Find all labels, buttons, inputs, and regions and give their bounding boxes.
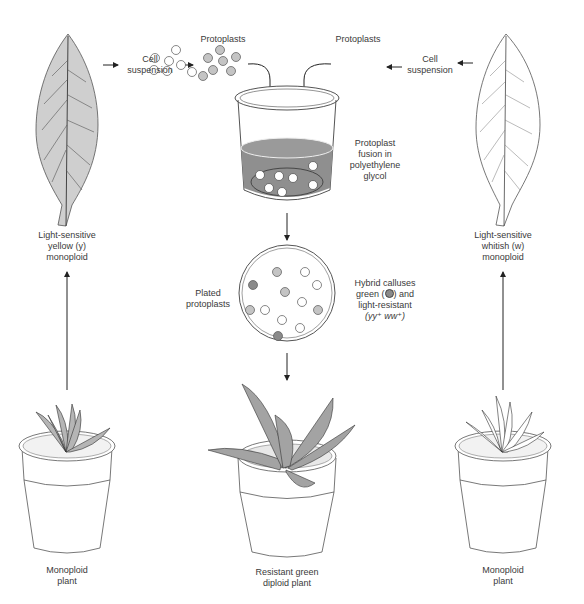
petri-dish-icon <box>239 245 335 341</box>
whitish-leaf-icon <box>476 34 540 226</box>
whitish-monoploid-label: Light-sensitive whitish (w) monoploid <box>458 230 548 263</box>
cell-suspension-right-label: Cell suspension <box>402 54 458 76</box>
hybrid-calluses-label: Hybrid calluses green () and light-resis… <box>340 278 430 322</box>
green-callus-icon <box>385 289 394 298</box>
yellow-protoplasts-icon <box>199 46 241 81</box>
diagram-artwork <box>0 0 584 604</box>
monoploid-whitish-plant-icon <box>455 396 551 553</box>
yellow-leaf-icon <box>36 34 98 226</box>
yellow-monoploid-label: Light-sensitive yellow (y) monoploid <box>22 230 112 263</box>
beaker-label: Protoplast fusion in polyethylene glycol <box>340 138 410 182</box>
result-plant-label: Resistant green diploid plant <box>247 567 327 589</box>
protoplasts-left-label: Protoplasts <box>195 34 251 45</box>
right-plant-label: Monoploid plant <box>473 565 533 587</box>
plated-protoplasts-label: Plated protoplasts <box>180 288 236 310</box>
resistant-green-plant-icon <box>208 384 355 557</box>
left-plant-label: Monoploid plant <box>37 565 97 587</box>
monoploid-yellow-plant-icon <box>19 404 115 553</box>
protoplasts-right-label: Protoplasts <box>330 34 386 45</box>
cell-suspension-left-label: Cell suspension <box>122 54 178 76</box>
beaker-icon <box>235 86 339 200</box>
